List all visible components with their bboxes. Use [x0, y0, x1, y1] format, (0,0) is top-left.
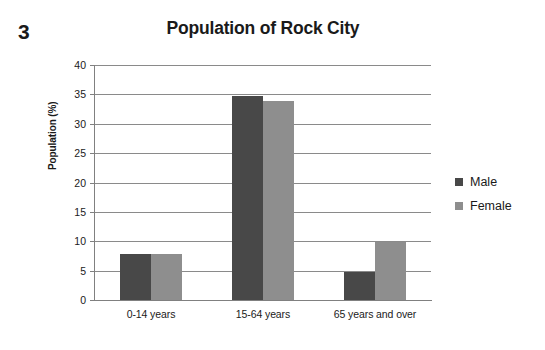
figure-container: 3 Population of Rock City Population (%)…: [0, 0, 545, 350]
chart-title: Population of Rock City: [95, 18, 431, 39]
bar-male-3: [344, 272, 375, 300]
y-axis-title: Population (%): [47, 50, 58, 170]
y-axis-tickmark: [90, 271, 95, 272]
y-axis-tick-label: 5: [80, 265, 86, 277]
y-axis-tickmark: [90, 183, 95, 184]
bar-female-3: [375, 242, 406, 300]
chart-legend: MaleFemale: [455, 170, 512, 218]
y-axis-tickmark: [90, 94, 95, 95]
legend-item-female: Female: [455, 194, 512, 218]
y-axis-tickmark: [90, 241, 95, 242]
bar-female-1: [151, 254, 182, 300]
legend-swatch-icon: [455, 202, 463, 210]
y-axis-tick-label: 15: [74, 206, 86, 218]
y-axis-tick-label: 25: [74, 147, 86, 159]
y-axis-tickmark: [90, 212, 95, 213]
x-axis-category-label: 65 years and over: [295, 308, 455, 320]
legend-label: Female: [470, 199, 512, 213]
gridline: [95, 65, 431, 66]
y-axis-tick-label: 30: [74, 118, 86, 130]
legend-item-male: Male: [455, 170, 512, 194]
bar-male-2: [232, 96, 263, 300]
y-axis-tickmark: [90, 65, 95, 66]
y-axis-tick-label: 40: [74, 59, 86, 71]
legend-swatch-icon: [455, 178, 463, 186]
bar-female-2: [263, 101, 294, 300]
y-axis-tick-label: 20: [74, 177, 86, 189]
bar-male-1: [120, 254, 151, 300]
y-axis-tickmark: [90, 300, 95, 301]
y-axis-tick-label: 0: [80, 294, 86, 306]
y-axis-tickmark: [90, 153, 95, 154]
figure-number: 3: [18, 20, 30, 44]
x-axis-line: [94, 300, 432, 301]
y-axis-tickmark: [90, 124, 95, 125]
plot-area: 4035302520151050: [95, 65, 431, 300]
y-axis-tick-label: 10: [74, 235, 86, 247]
gridline: [95, 94, 431, 95]
y-axis-tick-label: 35: [74, 88, 86, 100]
legend-label: Male: [470, 175, 497, 189]
